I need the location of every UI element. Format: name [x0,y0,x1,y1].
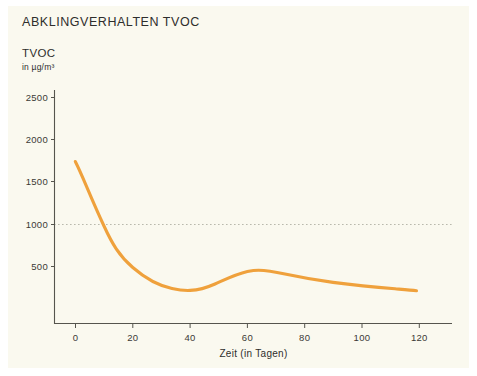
x-tick-label-100: 100 [347,332,377,343]
series-tvoc-line [75,162,416,291]
x-axis-ticks [76,324,420,329]
x-tick-label-60: 60 [232,332,262,343]
chart-figure: ABKLINGVERHALTEN TVOC TVOC in µg/m³ [0,0,477,376]
y-tick-label-2500: 2500 [14,92,48,103]
y-tick-label-1500: 1500 [14,176,48,187]
y-tick-label-2000: 2000 [14,134,48,145]
x-tick-label-0: 0 [61,332,91,343]
x-tick-label-80: 80 [290,332,320,343]
x-tick-label-40: 40 [175,332,205,343]
plot-area [0,0,477,376]
y-tick-label-500: 500 [14,261,48,272]
x-axis-title: Zeit (in Tagen) [0,348,477,359]
x-tick-label-20: 20 [118,332,148,343]
y-tick-label-1000: 1000 [14,219,48,230]
x-tick-label-120: 120 [404,332,434,343]
x-axis-title-text: Zeit (in Tagen) [189,348,287,359]
